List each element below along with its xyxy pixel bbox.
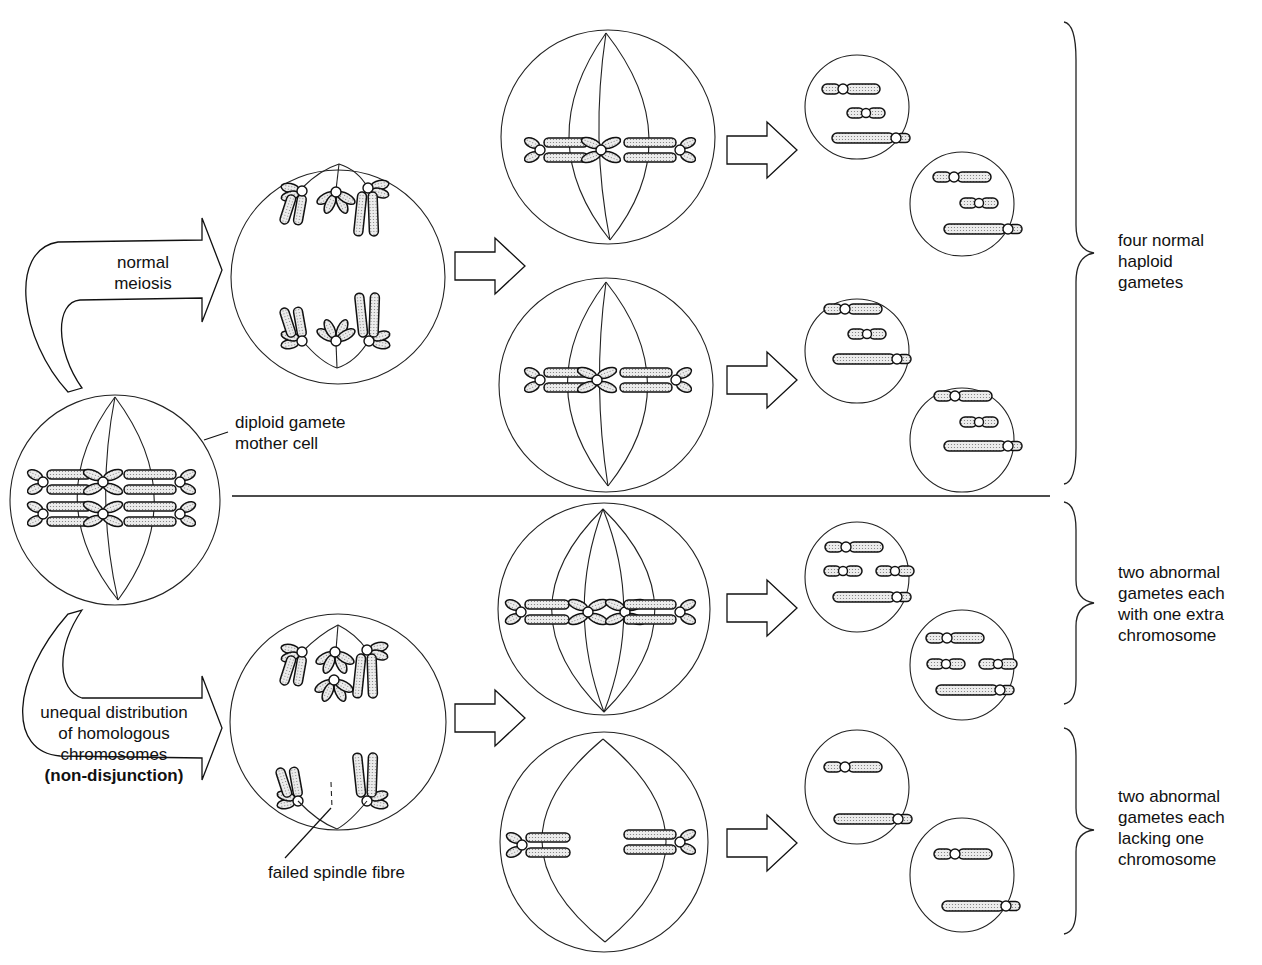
gamete-lacking-2 (910, 818, 1020, 932)
metaphase-II-normal-1 (501, 30, 715, 244)
metaphase-II-extra (498, 503, 710, 715)
gamete-extra-1 (805, 522, 914, 632)
metaphase-II-lacking (500, 732, 708, 952)
normal-meiosis-arrow (26, 218, 222, 392)
label-non-disjunction: unequal distribution of homologous chrom… (14, 702, 214, 786)
anaphase-I-nondisjunction-cell (230, 614, 446, 858)
label-outcome-normal: four normal haploid gametes (1118, 230, 1204, 293)
brace-lacking (1064, 728, 1094, 934)
label-failed-spindle-fibre: failed spindle fibre (268, 862, 405, 883)
gamete-lacking-1 (805, 730, 912, 844)
gamete-extra-2 (910, 610, 1017, 720)
meiosis-diagram: normal meiosis diploid gamete mother cel… (0, 0, 1262, 965)
gamete-normal-2 (910, 152, 1022, 256)
metaphase-II-normal-2 (499, 278, 713, 492)
label-normal-meiosis: normal meiosis (88, 252, 198, 294)
brace-extra (1064, 502, 1094, 704)
gamete-normal-4 (910, 388, 1022, 492)
diagram-canvas (0, 0, 1262, 965)
anaphase-I-normal-cell (231, 164, 445, 384)
label-mother-cell: diploid gamete mother cell (235, 412, 346, 454)
label-outcome-extra: two abnormal gametes each with one extra… (1118, 562, 1225, 646)
gamete-normal-3 (805, 299, 911, 403)
mother-cell (10, 395, 228, 605)
gamete-normal-1 (805, 55, 910, 159)
label-outcome-lacking: two abnormal gametes each lacking one ch… (1118, 786, 1225, 870)
brace-normal (1064, 22, 1094, 484)
